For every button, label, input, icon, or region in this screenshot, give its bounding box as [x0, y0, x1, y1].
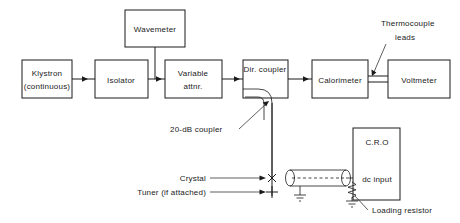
block-label-voltmeter: Voltmeter — [401, 76, 437, 85]
block-label-cro-dc-input: dc input — [362, 175, 392, 184]
arrowhead-calorimeter-input — [303, 76, 309, 82]
annotation-tuner: Tuner (if attached) — [137, 188, 206, 197]
block-label-variable-attenuator: Variable — [178, 69, 209, 78]
block-klystron — [22, 60, 72, 98]
block-label-isolator: Isolator — [107, 76, 135, 85]
annotation-loading-resistor: Loading resistor — [372, 206, 432, 215]
block-label-wavemeter: Wavemeter — [134, 25, 177, 34]
block-sublabel-klystron: (continuous) — [24, 82, 71, 91]
block-label-klystron: Klystron — [32, 69, 63, 78]
coaxial-line — [286, 170, 354, 186]
block-label-cro: C.R.O — [365, 138, 388, 147]
block-diagram-figure: Klystron (continuous) Isolator Variable … — [0, 0, 460, 223]
arrowhead-attenuator-input — [156, 76, 162, 82]
arrowhead-thermocouple-leads — [371, 70, 376, 76]
block-sublabel-variable-attenuator: attnr. — [184, 82, 203, 91]
arrowhead-tuner — [260, 189, 267, 194]
tuner-symbol — [266, 186, 278, 198]
block-label-directional-coupler: Dir. coupler — [244, 65, 287, 74]
annotation-20db-coupler: 20-dB coupler — [170, 125, 223, 134]
leader-20db-coupler — [239, 104, 266, 129]
annotation-thermocouple-leads-line1: Thermocouple — [381, 19, 435, 28]
annotation-thermocouple-leads-line2: leads — [395, 33, 415, 42]
annotation-crystal: Crystal — [180, 174, 206, 183]
diagram-canvas: Klystron (continuous) Isolator Variable … — [0, 0, 460, 223]
ground-symbol-coax — [294, 186, 306, 201]
arrowhead-crystal — [260, 175, 267, 180]
arrowhead-coupler-input — [234, 76, 240, 82]
block-label-calorimeter: Calorimeter — [318, 76, 362, 85]
arrowhead-isolator-input — [82, 76, 88, 82]
leader-thermocouple-leads — [374, 44, 386, 72]
block-variable-attenuator — [165, 60, 222, 98]
